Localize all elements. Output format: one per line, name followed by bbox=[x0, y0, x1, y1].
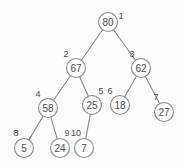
tree-edge-5-10 bbox=[86, 114, 91, 138]
node-value-5: 25 bbox=[86, 100, 98, 111]
node-value-10: 7 bbox=[81, 143, 87, 154]
node-value-2: 67 bbox=[70, 63, 82, 74]
node-value-7: 27 bbox=[158, 107, 170, 118]
edge-layer bbox=[29, 30, 160, 140]
node-value-1: 80 bbox=[102, 17, 114, 28]
tree-edge-4-8 bbox=[29, 116, 43, 140]
tree-node-2[interactable]: 67 bbox=[67, 59, 86, 78]
node-index-label-3: 3 bbox=[129, 49, 134, 59]
tree-canvas: 806762582518275247 12345678910 bbox=[0, 0, 184, 168]
tree-node-5[interactable]: 25 bbox=[83, 96, 102, 115]
node-index-label-2: 2 bbox=[63, 49, 68, 59]
tree-node-6[interactable]: 18 bbox=[111, 96, 130, 115]
tree-node-7[interactable]: 27 bbox=[155, 103, 174, 122]
node-index-label-6: 6 bbox=[107, 86, 112, 96]
node-value-8: 5 bbox=[21, 143, 27, 154]
node-value-3: 62 bbox=[135, 63, 147, 74]
tree-edge-2-5 bbox=[80, 77, 88, 97]
node-index-label-8: 8 bbox=[13, 128, 18, 138]
tree-edge-4-9 bbox=[51, 117, 58, 139]
tree-node-9[interactable]: 24 bbox=[51, 139, 70, 158]
tree-node-10[interactable]: 7 bbox=[75, 139, 94, 158]
tree-node-4[interactable]: 58 bbox=[39, 99, 58, 118]
node-value-9: 24 bbox=[54, 143, 66, 154]
binary-tree-diagram: 806762582518275247 12345678910 bbox=[0, 0, 184, 168]
tree-node-3[interactable]: 62 bbox=[132, 59, 151, 78]
tree-edge-2-4 bbox=[53, 76, 70, 100]
tree-edge-1-2 bbox=[81, 30, 102, 60]
node-index-label-1: 1 bbox=[118, 11, 123, 21]
node-value-6: 18 bbox=[114, 100, 126, 111]
node-index-label-7: 7 bbox=[153, 92, 158, 102]
tree-edge-3-6 bbox=[125, 76, 137, 96]
tree-node-8[interactable]: 5 bbox=[15, 139, 34, 158]
node-index-label-10: 10 bbox=[71, 128, 81, 138]
tree-node-1[interactable]: 80 bbox=[99, 13, 118, 32]
node-value-4: 58 bbox=[42, 103, 54, 114]
node-index-label-9: 9 bbox=[64, 128, 69, 138]
node-index-label-5: 5 bbox=[98, 86, 103, 96]
node-index-label-4: 4 bbox=[35, 89, 40, 99]
